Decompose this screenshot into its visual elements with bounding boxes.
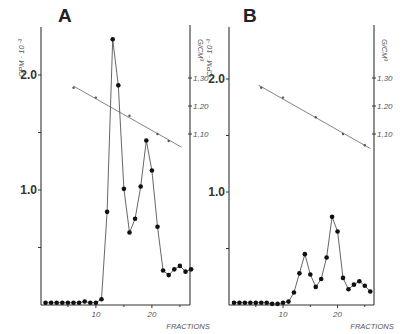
cpm-point: [352, 282, 357, 287]
density-point: [128, 115, 130, 117]
cpm-point: [144, 138, 149, 143]
cpm-point: [88, 300, 93, 305]
cpm-point: [43, 300, 48, 305]
cpm-point: [189, 267, 194, 272]
density-tick-label: 1.20: [377, 102, 393, 111]
cpm-point: [281, 300, 286, 305]
density-point: [72, 87, 74, 89]
cpm-point: [60, 300, 65, 305]
cpm-point: [248, 300, 253, 305]
cpm-point: [335, 229, 340, 234]
cpm-point: [71, 300, 76, 305]
density-point: [260, 87, 262, 89]
density-point: [156, 133, 158, 135]
panel-a: A1.02.0CPM · 10⁻³1.101.201.30G/CM³1020FR…: [17, 5, 210, 331]
cpm-point: [330, 215, 335, 220]
cpm-point: [178, 264, 183, 269]
cpm-point: [319, 277, 324, 282]
cpm-point: [54, 300, 59, 305]
density-point: [342, 133, 344, 135]
cpm-point: [237, 300, 242, 305]
cpm-point: [161, 268, 166, 273]
x-tick-label: 20: [332, 310, 342, 319]
cpm-point: [155, 225, 160, 230]
cpm-point: [286, 299, 291, 304]
cpm-point: [254, 300, 259, 305]
cpm-point: [259, 300, 264, 305]
density-tick-label: 1.20: [193, 102, 209, 111]
density-point: [282, 96, 284, 98]
density-line: [259, 85, 371, 148]
cpm-point: [363, 283, 368, 288]
x-axis-title: FRACTIONS: [166, 322, 209, 331]
y-axis-title-right: G/CM³: [380, 39, 389, 62]
cpm-point: [105, 210, 110, 215]
cpm-point: [94, 300, 99, 305]
cpm-point: [183, 269, 188, 274]
x-tick-label: 10: [91, 310, 100, 319]
x-tick-label: 10: [279, 310, 288, 319]
density-tick-label: 1.10: [193, 130, 209, 139]
cpm-point: [99, 297, 104, 302]
density-line: [74, 86, 182, 147]
cpm-point: [49, 300, 54, 305]
cpm-point: [66, 300, 71, 305]
cpm-point: [77, 300, 82, 305]
gradient-chart: A1.02.0CPM · 10⁻³1.101.201.30G/CM³1020FR…: [0, 0, 402, 334]
cpm-point: [138, 184, 143, 189]
cpm-point: [133, 216, 138, 221]
cpm-point: [166, 273, 171, 278]
panel-label: A: [58, 5, 72, 26]
cpm-point: [368, 289, 373, 294]
cpm-point: [357, 279, 362, 284]
y-axis-title-right: G/CM³: [196, 39, 205, 62]
density-point: [168, 140, 170, 142]
cpm-point: [313, 285, 318, 290]
density-point: [315, 116, 317, 118]
cpm-point: [122, 187, 127, 192]
cpm-line: [46, 39, 192, 302]
cpm-point: [264, 300, 269, 305]
x-axis-title: FRACTIONS: [350, 322, 393, 331]
cpm-point: [275, 302, 280, 307]
cpm-point: [297, 271, 302, 276]
cpm-point: [150, 168, 155, 173]
cpm-point: [341, 276, 346, 281]
y-tick-label: 1.0: [20, 183, 37, 197]
cpm-point: [232, 300, 237, 305]
density-tick-label: 1.30: [377, 74, 393, 83]
y-tick-label: 1.0: [208, 185, 225, 199]
y-axis-title-left: CPM · 10⁻³: [17, 38, 26, 77]
cpm-point: [308, 272, 313, 277]
cpm-point: [116, 83, 121, 88]
cpm-point: [127, 230, 132, 235]
cpm-point: [243, 300, 248, 305]
cpm-point: [303, 252, 308, 257]
cpm-point: [270, 302, 275, 307]
cpm-point: [110, 37, 115, 42]
cpm-point: [292, 290, 297, 295]
cpm-point: [324, 255, 329, 260]
density-point: [95, 96, 97, 98]
panel-label: B: [243, 5, 257, 26]
x-tick-label: 20: [146, 310, 156, 319]
density-point: [364, 144, 366, 146]
cpm-point: [346, 287, 351, 292]
panel-b: B1.02.0CPM · 10⁻³1.101.201.30G/CM³1020FR…: [205, 5, 394, 331]
density-tick-label: 1.10: [377, 130, 393, 139]
y-axis-title-left: CPM · 10⁻³: [205, 38, 214, 77]
cpm-point: [172, 267, 177, 272]
cpm-point: [82, 299, 87, 304]
